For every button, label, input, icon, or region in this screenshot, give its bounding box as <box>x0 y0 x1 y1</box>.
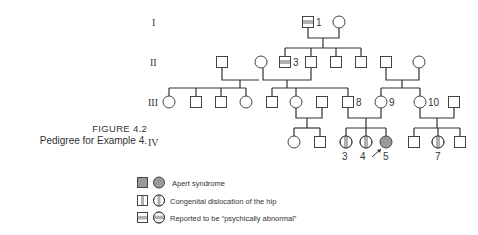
label-III-10: 10 <box>428 97 440 108</box>
legend-female-psychic-icon <box>154 212 165 223</box>
individual-IV-5-female-apert-syndrome-proband <box>380 136 392 148</box>
label-IV-5: 5 <box>383 151 389 162</box>
individual-III-female <box>163 96 175 108</box>
pedigree-chart: I II III IV <box>0 0 478 235</box>
legend-male-psychic-icon <box>138 213 148 223</box>
label-II-3: 3 <box>293 57 299 68</box>
generation-label-III: III <box>148 97 158 108</box>
legend-label-hip: Congenital dislocation of the hip <box>170 197 276 206</box>
legend-female-apert-icon <box>154 177 165 188</box>
legend-label-psychic: Reported to be “psychically abnormal” <box>170 214 297 223</box>
individual-II-female <box>255 56 267 68</box>
individual-IV-7-female-hip-dislocation <box>432 136 444 148</box>
legend-male-hip-icon <box>138 196 148 206</box>
individual-IV-male <box>315 137 326 148</box>
label-IV-7: 7 <box>435 151 441 162</box>
individual-IV-4-female-hip-dislocation <box>360 136 372 148</box>
individual-III-10-female <box>414 96 426 108</box>
individual-III-male <box>317 97 328 108</box>
individual-III-female <box>290 96 302 108</box>
individual-IV-male <box>409 137 420 148</box>
individual-II-male <box>217 57 228 68</box>
individual-III-female <box>240 96 252 108</box>
generation-label-II: II <box>150 57 157 68</box>
pedigree-lines <box>169 28 460 136</box>
individual-I-1-male-psychically-abnormal <box>303 17 314 28</box>
individual-III-male <box>449 97 460 108</box>
individual-IV-male <box>455 137 466 148</box>
individual-II-male <box>381 57 392 68</box>
generation-label-I: I <box>152 17 155 28</box>
individual-III-male <box>267 97 278 108</box>
generation-label-IV: IV <box>148 137 159 148</box>
individual-II-male <box>331 57 342 68</box>
individual-III-male <box>216 97 227 108</box>
individual-II-male <box>356 57 367 68</box>
individual-II-male <box>306 57 317 68</box>
label-IV-3: 3 <box>342 151 348 162</box>
individual-II-female <box>413 56 425 68</box>
individual-I-2-female <box>333 16 345 28</box>
label-IV-4: 4 <box>360 151 366 162</box>
legend-label-apert: Apert syndrome <box>172 179 225 188</box>
label-III-9: 9 <box>389 97 395 108</box>
individual-II-3-male-psychically-abnormal <box>280 57 291 68</box>
individual-IV-female <box>288 136 300 148</box>
legend: Apert syndrome Congenital dislocation of… <box>138 177 297 223</box>
legend-male-apert-icon <box>138 178 148 188</box>
individual-III-9-female <box>375 96 387 108</box>
individual-III-male <box>191 97 202 108</box>
individual-IV-3-female-hip-dislocation <box>340 136 352 148</box>
label-III-8: 8 <box>356 97 362 108</box>
legend-female-hip-icon <box>154 195 165 206</box>
individual-III-8-male <box>343 97 354 108</box>
label-I-1: 1 <box>316 17 322 28</box>
